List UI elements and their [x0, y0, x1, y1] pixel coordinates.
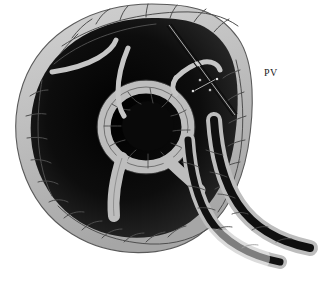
label-pv: PV	[264, 67, 278, 78]
figure-root: PV	[0, 0, 330, 290]
anatomical-illustration-canvas: PV	[0, 0, 330, 290]
